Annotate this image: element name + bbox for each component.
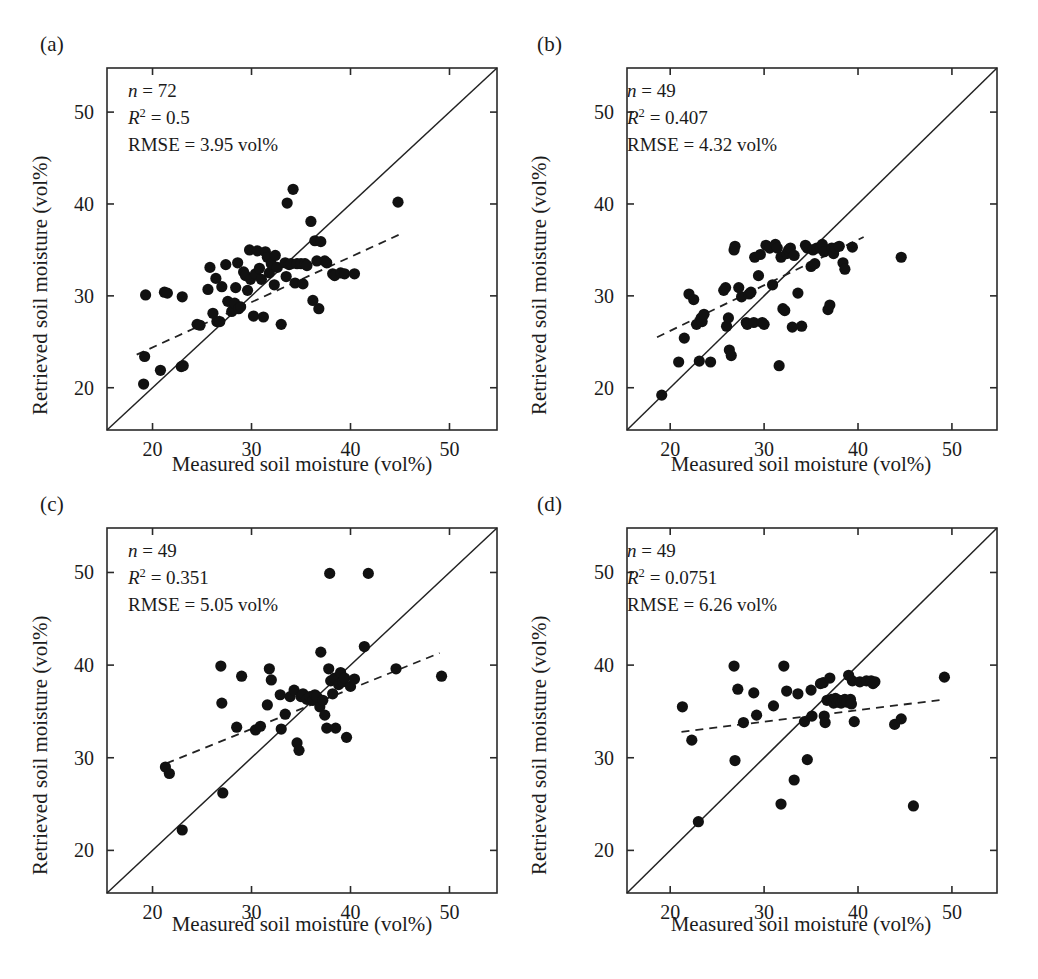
data-point (155, 365, 166, 376)
data-point (215, 660, 226, 671)
panel-c-plot: 2030405020304050 (0, 460, 520, 960)
data-point (341, 732, 352, 743)
data-point (313, 303, 324, 314)
data-point (726, 350, 737, 361)
data-point (723, 312, 734, 323)
panel-d-xaxis-title: Measured soil moisture (vol%) (606, 912, 996, 937)
data-point (778, 660, 789, 671)
data-point (802, 754, 813, 765)
data-point (330, 723, 341, 734)
data-point (896, 252, 907, 263)
data-point (177, 824, 188, 835)
y-tick-label: 30 (594, 747, 614, 769)
y-tick-label: 30 (594, 285, 614, 307)
y-tick-label: 20 (594, 839, 614, 861)
data-point (896, 713, 907, 724)
data-point (847, 242, 858, 253)
data-point (282, 197, 293, 208)
data-point (693, 816, 704, 827)
data-point (679, 333, 690, 344)
y-tick-label: 50 (594, 561, 614, 583)
panel-b-plot: 2030405020304050 (519, 0, 1038, 500)
data-point (745, 287, 756, 298)
data-point (287, 184, 298, 195)
data-point (789, 250, 800, 261)
data-point (781, 685, 792, 696)
panel-a-plot: 2030405020304050 (0, 0, 520, 500)
data-point (392, 197, 403, 208)
data-point (792, 688, 803, 699)
data-point (232, 257, 243, 268)
data-point (753, 270, 764, 281)
data-point (824, 299, 835, 310)
panel-d-plot: 2030405020304050 (519, 460, 1038, 960)
data-point (254, 263, 265, 274)
data-point (269, 279, 280, 290)
data-point (789, 774, 800, 785)
data-point (216, 697, 227, 708)
data-point (321, 257, 332, 268)
panel-c-yaxis-title: Retrieved soil moisture (vol%) (28, 615, 53, 875)
one-to-one-line (107, 528, 497, 893)
data-point (694, 355, 705, 366)
y-tick-label: 50 (74, 101, 94, 123)
data-point (162, 288, 173, 299)
y-tick-label: 50 (594, 101, 614, 123)
data-point (677, 701, 688, 712)
y-tick-label: 40 (594, 654, 614, 676)
data-point (276, 319, 287, 330)
y-tick-label: 40 (74, 654, 94, 676)
data-point (673, 356, 684, 367)
data-point (235, 301, 246, 312)
data-point (728, 660, 739, 671)
data-point (177, 291, 188, 302)
data-point (214, 316, 225, 327)
panel-d-yaxis-title: Retrieved soil moisture (vol%) (527, 615, 552, 875)
data-point (908, 800, 919, 811)
data-point (774, 360, 785, 371)
data-point (236, 671, 247, 682)
data-point (319, 710, 330, 721)
data-point (656, 389, 667, 400)
y-tick-label: 20 (74, 839, 94, 861)
data-point (686, 735, 697, 746)
panel-a-yaxis-title: Retrieved soil moisture (vol%) (28, 155, 53, 415)
data-point (349, 673, 360, 684)
data-point (217, 787, 228, 798)
data-point (732, 684, 743, 695)
data-point (139, 351, 150, 362)
data-point (264, 663, 275, 674)
data-point (339, 268, 350, 279)
data-point (779, 305, 790, 316)
data-point (204, 262, 215, 273)
y-tick-label: 20 (594, 377, 614, 399)
data-point (230, 282, 241, 293)
data-point (820, 717, 831, 728)
y-tick-label: 40 (594, 193, 614, 215)
data-point (698, 309, 709, 320)
data-point (324, 568, 335, 579)
data-point (806, 710, 817, 721)
data-point (349, 268, 360, 279)
data-point (705, 356, 716, 367)
data-point (809, 258, 820, 269)
data-point (759, 319, 770, 330)
data-point (164, 768, 175, 779)
one-to-one-line (107, 68, 497, 430)
data-point (748, 687, 759, 698)
data-point (301, 260, 312, 271)
data-point (775, 798, 786, 809)
data-point (305, 216, 316, 227)
data-point (323, 663, 334, 674)
data-point (327, 688, 338, 699)
data-point (293, 745, 304, 756)
data-point (202, 284, 213, 295)
data-point (939, 672, 950, 683)
y-tick-label: 50 (74, 561, 94, 583)
data-point (317, 695, 328, 706)
data-point (216, 281, 227, 292)
data-point (767, 279, 778, 290)
data-point (768, 700, 779, 711)
panel-c-xaxis-title: Measured soil moisture (vol%) (107, 912, 497, 937)
data-point (280, 709, 291, 720)
